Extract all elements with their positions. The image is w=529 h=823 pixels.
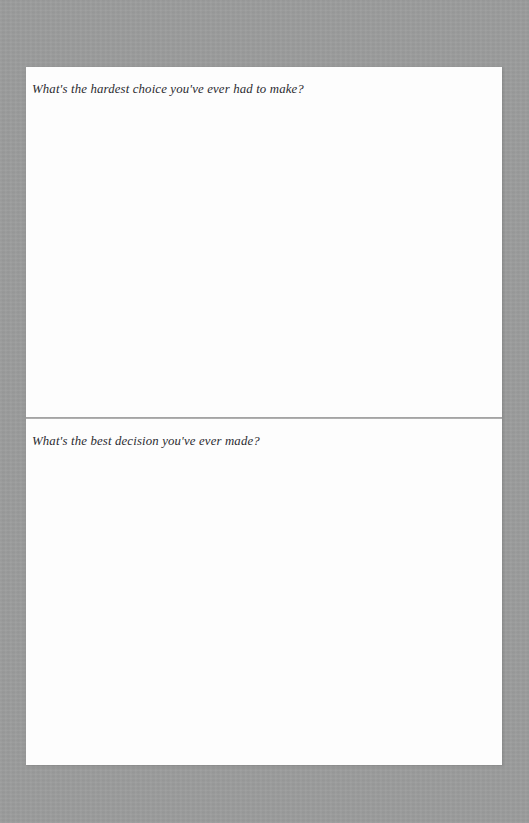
answer-area-hardest-choice[interactable] [32, 105, 488, 407]
prompt-text-best-decision: What's the best decision you've ever mad… [32, 433, 484, 450]
journal-sheet: What's the hardest choice you've ever ha… [26, 67, 502, 765]
answer-area-best-decision[interactable] [32, 457, 488, 755]
journal-panel-best-decision: What's the best decision you've ever mad… [26, 419, 502, 765]
journal-panel-hardest-choice: What's the hardest choice you've ever ha… [26, 67, 502, 417]
prompt-text-hardest-choice: What's the hardest choice you've ever ha… [32, 81, 484, 98]
